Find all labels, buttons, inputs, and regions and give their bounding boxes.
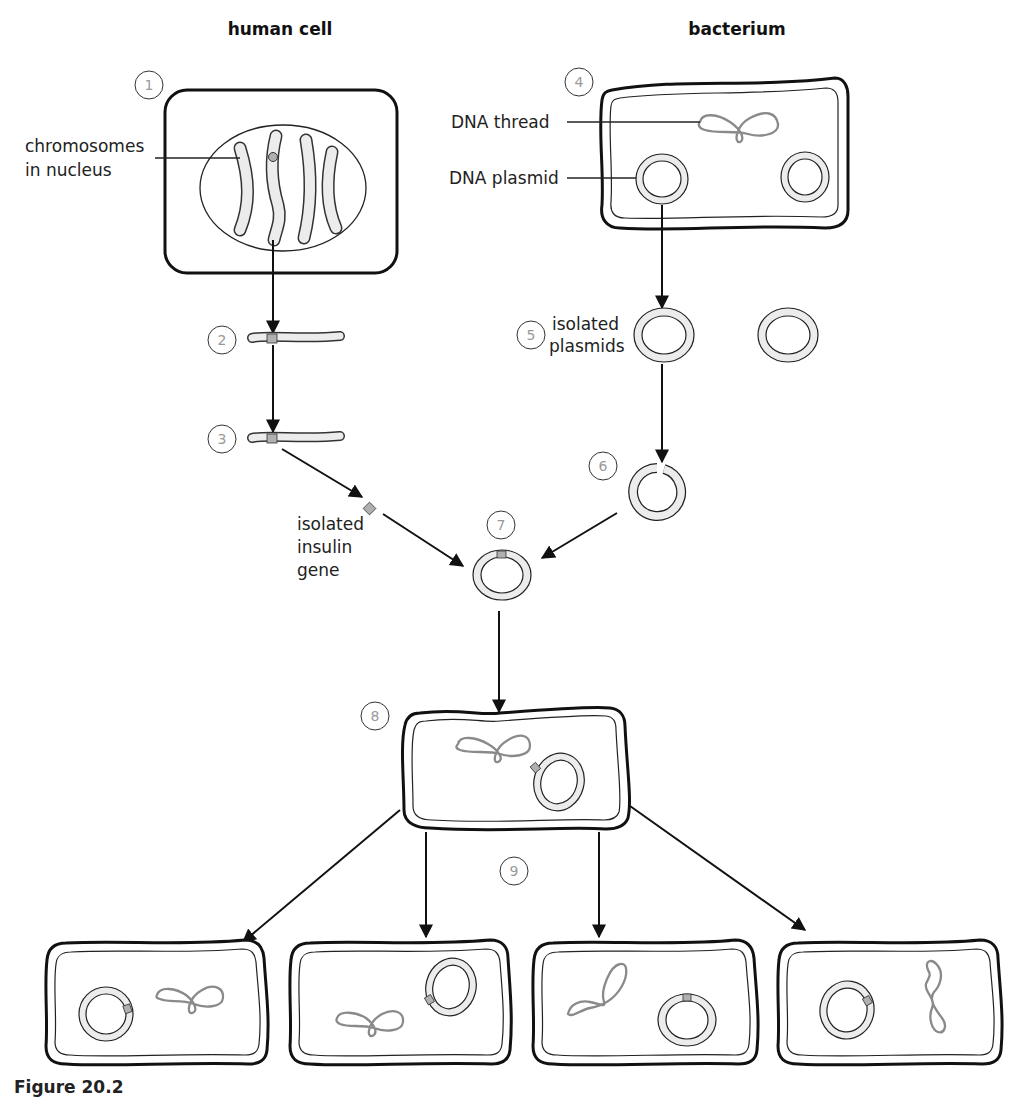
- label-chromosomes: chromosomes: [25, 136, 144, 156]
- isolated-insulin-gene: [363, 502, 376, 515]
- chromosome-step-3: [252, 434, 340, 443]
- step-9-number: 9: [500, 857, 528, 885]
- step-3-number: 3: [208, 425, 236, 453]
- label-isolated-plasmids-line1: isolated: [552, 314, 619, 334]
- step-2-number: 2: [208, 326, 236, 354]
- svg-text:7: 7: [497, 517, 506, 533]
- figure-caption: Figure 20.2: [14, 1077, 124, 1097]
- heading-bacterium: bacterium: [688, 19, 785, 39]
- recombinant-plasmid: [473, 550, 531, 600]
- step-7-number: 7: [487, 511, 515, 539]
- label-dna-plasmid: DNA plasmid: [449, 168, 559, 188]
- daughter-bacterium-1: [46, 940, 268, 1065]
- daughter-bacterium-3: [533, 940, 758, 1065]
- svg-text:5: 5: [527, 327, 536, 343]
- daughter-bacterium-4: [778, 940, 1002, 1065]
- step-1-number: 1: [135, 71, 163, 99]
- svg-text:2: 2: [218, 332, 227, 348]
- cut-plasmid: [633, 468, 681, 516]
- step-6-number: 6: [589, 452, 617, 480]
- human-cell: [165, 90, 397, 273]
- bacterium-cell: [601, 78, 848, 229]
- daughter-bacterium-2: [290, 940, 511, 1065]
- label-isolated-insulin-line3: gene: [297, 560, 339, 580]
- svg-text:3: 3: [218, 431, 227, 447]
- svg-text:1: 1: [145, 77, 154, 93]
- arrow-8-to-daughter-4: [630, 806, 805, 930]
- genetic-engineering-diagram: human cell bacterium 1 chromosomes in nu…: [0, 0, 1023, 1099]
- chromosome-step-2: [252, 334, 340, 343]
- arrow-3-to-gene: [282, 449, 362, 497]
- label-isolated-plasmids-line2: plasmids: [549, 336, 625, 356]
- svg-text:9: 9: [510, 863, 519, 879]
- arrow-8-to-daughter-1: [243, 810, 400, 942]
- step-5-number: 5: [517, 321, 545, 349]
- svg-text:4: 4: [575, 74, 584, 90]
- label-dna-thread: DNA thread: [451, 112, 550, 132]
- isolated-plasmids: [634, 308, 818, 362]
- arrow-6-to-7: [542, 513, 617, 558]
- svg-text:8: 8: [371, 708, 380, 724]
- arrow-gene-to-7: [383, 514, 463, 566]
- heading-human-cell: human cell: [228, 19, 333, 39]
- step-8-number: 8: [361, 702, 389, 730]
- label-in-nucleus: in nucleus: [25, 160, 112, 180]
- transformed-bacterium: [402, 707, 629, 829]
- step-4-number: 4: [565, 68, 593, 96]
- label-isolated-insulin-line1: isolated: [297, 514, 364, 534]
- label-isolated-insulin-line2: insulin: [297, 537, 352, 557]
- svg-text:6: 6: [599, 458, 608, 474]
